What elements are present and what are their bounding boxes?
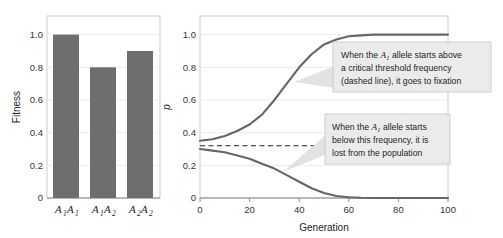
- line-y-axis-title: p: [161, 104, 172, 111]
- bar-ytick-label-0.4: 0.4: [30, 127, 43, 138]
- svg-text:2: 2: [112, 209, 116, 218]
- line-xtick-label-100: 100: [440, 204, 456, 215]
- line-x-axis-title: Generation: [299, 222, 348, 233]
- bar-ytick-label-0.8: 0.8: [30, 62, 43, 73]
- svg-text:2: 2: [149, 209, 153, 218]
- bar-ytick-label-0: 0: [38, 192, 43, 203]
- callout-loss-line2: below this frequency, it is: [332, 135, 429, 145]
- figure-root: 1.0 0.8 0.6 0.4 0.2 0 Fitness A 1 A: [0, 0, 503, 238]
- bar-y-axis: 1.0 0.8 0.6 0.4 0.2 0: [30, 29, 43, 204]
- line-ytick-label-1.0: 1.0: [183, 29, 196, 40]
- bar-category-label-A1A2: A 1 A 2: [91, 203, 116, 218]
- line-chart-panel: 1.0 0.8 0.6 0.4 0.2 0 p 0: [161, 16, 491, 233]
- bar-y-axis-title: Fitness: [11, 91, 22, 123]
- callout-fixation-line1: When the A1 allele starts above: [341, 50, 462, 61]
- bar-category-label-A2A2: A 2 A 2: [128, 203, 153, 218]
- callout-loss-line3: lost from the population: [332, 148, 422, 158]
- bar-ytick-label-1.0: 1.0: [30, 29, 43, 40]
- svg-text:A: A: [140, 203, 148, 215]
- callout-loss-line1: When the A1 allele starts: [332, 122, 427, 133]
- bar-chart-panel: 1.0 0.8 0.6 0.4 0.2 0 Fitness A 1 A: [11, 16, 160, 218]
- line-ytick-label-0: 0: [191, 192, 196, 203]
- line-ytick-label-0.6: 0.6: [183, 94, 196, 105]
- callout-fixation-line3: (dashed line), it goes to fixation: [341, 76, 461, 86]
- svg-text:A: A: [66, 203, 74, 215]
- bar-category-labels: A 1 A 1 A 1 A 2 A 2 A 2: [54, 203, 153, 218]
- figure-svg: 1.0 0.8 0.6 0.4 0.2 0 Fitness A 1 A: [0, 0, 503, 238]
- line-ytick-label-0.8: 0.8: [183, 62, 196, 73]
- bar-category-label-A1A1: A 1 A 1: [54, 203, 79, 218]
- svg-text:1: 1: [75, 209, 79, 218]
- line-xtick-label-60: 60: [344, 204, 355, 215]
- svg-text:A: A: [128, 203, 136, 215]
- bar-ytick-label-0.2: 0.2: [30, 160, 43, 171]
- line-xtick-label-40: 40: [294, 204, 305, 215]
- bar-A1A2: [90, 67, 116, 198]
- line-y-axis: 1.0 0.8 0.6 0.4 0.2 0: [183, 29, 196, 204]
- line-xtick-label-80: 80: [393, 204, 404, 215]
- svg-text:A: A: [103, 203, 111, 215]
- bar-A1A1: [53, 35, 79, 198]
- bar-ytick-label-0.6: 0.6: [30, 94, 43, 105]
- line-xtick-label-0: 0: [197, 204, 202, 215]
- svg-text:A: A: [54, 203, 62, 215]
- line-ytick-label-0.2: 0.2: [183, 160, 196, 171]
- line-xtick-label-20: 20: [244, 204, 255, 215]
- callout-fixation-line2: a critical threshold frequency: [341, 63, 452, 73]
- svg-text:A: A: [91, 203, 99, 215]
- line-ytick-label-0.4: 0.4: [183, 127, 196, 138]
- bar-A2A2: [127, 51, 153, 198]
- line-x-axis-labels: 0 20 40 60 80 100: [197, 204, 456, 215]
